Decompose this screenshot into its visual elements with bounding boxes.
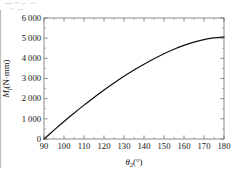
y-tick-label: 5 000	[22, 33, 41, 43]
x-tick-label: 180	[218, 141, 231, 151]
x-tick-label: 120	[98, 141, 111, 151]
y-tick-label: 6 000	[22, 13, 41, 23]
x-tick-label: 170	[198, 141, 211, 151]
y-tick-label: 1 000	[22, 114, 41, 124]
x-axis-title: θ2(°)	[126, 157, 143, 168]
y-tick-label: 0	[37, 134, 41, 144]
y-major-ticks	[44, 18, 224, 139]
figure-panel: 90 100 110 120 130 140 150 160 170 180 0…	[0, 0, 235, 172]
x-tick-label: 110	[78, 141, 91, 151]
y-axis-title-unit: (N·mm)	[1, 59, 11, 88]
y-minor-ticks	[44, 28, 224, 129]
svg-text:Mf(N·mm): Mf(N·mm)	[1, 59, 12, 98]
y-tick-label: 4 000	[22, 53, 41, 63]
y-tick-label: 2 000	[22, 93, 41, 103]
x-tick-labels: 90 100 110 120 130 140 150 160 170 180	[40, 141, 231, 151]
svg-text:θ2(°): θ2(°)	[126, 157, 143, 168]
x-minor-ticks	[54, 18, 214, 139]
x-tick-label: 140	[138, 141, 151, 151]
y-tick-label: 3 000	[22, 73, 41, 83]
plot-frame	[44, 18, 224, 139]
chart-canvas: 90 100 110 120 130 140 150 160 170 180 0…	[0, 0, 235, 172]
y-tick-labels: 0 1 000 2 000 3 000 4 000 5 000 6 000	[22, 13, 41, 144]
x-tick-label: 130	[118, 141, 131, 151]
x-major-ticks	[44, 18, 224, 139]
scan-artifact	[5, 2, 36, 9]
x-axis-title-unit: (°)	[133, 157, 142, 167]
data-curve	[44, 37, 224, 139]
y-axis-title: Mf(N·mm)	[1, 59, 12, 98]
x-tick-label: 100	[58, 141, 71, 151]
x-tick-label: 160	[178, 141, 191, 151]
x-tick-label: 150	[158, 141, 171, 151]
